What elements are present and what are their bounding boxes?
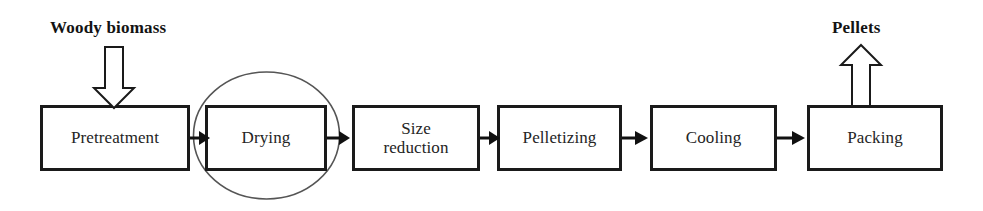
woody-biomass-input-arrow xyxy=(94,47,134,108)
connector-arrow-pretreatment-to-drying xyxy=(190,131,210,145)
pellets-label: Pellets xyxy=(832,18,881,38)
connector-arrow-size-reduction-to-pelletizing xyxy=(480,131,500,145)
connector-arrow-cooling-to-packing xyxy=(777,131,805,145)
woody-biomass-label: Woody biomass xyxy=(50,18,166,38)
connector-arrow-pelletizing-to-cooling xyxy=(622,131,648,145)
connector-arrow-drying-to-size-reduction xyxy=(327,131,350,145)
pellets-output-arrow xyxy=(841,45,881,106)
process-flow-diagram: Pretreatment Drying Size reduction Pelle… xyxy=(0,0,983,211)
